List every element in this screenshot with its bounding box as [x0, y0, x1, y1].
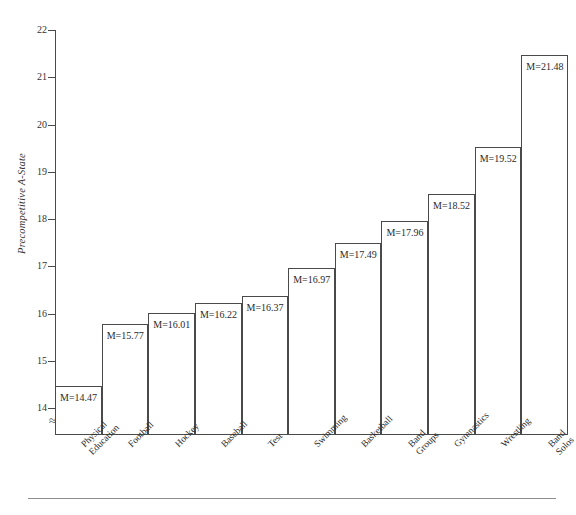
bar[interactable]: M=19.52: [475, 147, 522, 434]
y-tick-label: 16: [25, 309, 47, 319]
y-tick: [48, 408, 55, 409]
plot-area: Precompetitive A-State 22212019181716151…: [0, 0, 576, 515]
footer-divider: [28, 498, 556, 499]
bar-value-label: M=19.52: [480, 153, 517, 164]
bar[interactable]: M=16.97: [288, 268, 335, 434]
bar[interactable]: M=17.49: [335, 243, 382, 434]
y-axis-title: Precompetitive A-State: [16, 129, 27, 279]
bar[interactable]: M=16.22: [195, 303, 242, 434]
y-tick-label: 19: [25, 167, 47, 177]
y-tick: [48, 77, 55, 78]
y-tick: [48, 314, 55, 315]
y-tick-label: 21: [25, 72, 47, 82]
bar-value-label: M=21.48: [526, 61, 563, 72]
bar-value-label: M=17.96: [386, 227, 423, 238]
y-tick-label: 20: [25, 120, 47, 130]
bar-chart: Precompetitive A-State 22212019181716151…: [0, 0, 576, 515]
y-tick: [48, 266, 55, 267]
bar[interactable]: M=16.01: [148, 313, 195, 434]
bar[interactable]: M=16.37: [242, 296, 289, 434]
y-tick-label: 22: [25, 25, 47, 35]
y-tick-label: 15: [25, 356, 47, 366]
y-tick-label: 17: [25, 261, 47, 271]
y-tick: [48, 30, 55, 31]
y-axis-line: [55, 30, 56, 434]
bar-value-label: M=16.01: [153, 319, 190, 330]
bar-value-label: M=18.52: [433, 200, 470, 211]
bar-value-label: M=16.22: [200, 309, 237, 320]
bar-value-label: M=16.37: [247, 302, 284, 313]
bar-value-label: M=14.47: [60, 392, 97, 403]
y-tick-label: 14: [25, 403, 47, 413]
bar-value-label: M=16.97: [293, 274, 330, 285]
y-tick: [48, 172, 55, 173]
bar[interactable]: M=21.48: [521, 55, 568, 434]
y-tick-label: 18: [25, 214, 47, 224]
y-tick: [48, 219, 55, 220]
bar-value-label: M=15.77: [107, 330, 144, 341]
bar[interactable]: M=17.96: [381, 221, 428, 434]
bar[interactable]: M=18.52: [428, 194, 475, 434]
y-tick: [48, 125, 55, 126]
bar-value-label: M=17.49: [340, 249, 377, 260]
y-tick: [48, 361, 55, 362]
